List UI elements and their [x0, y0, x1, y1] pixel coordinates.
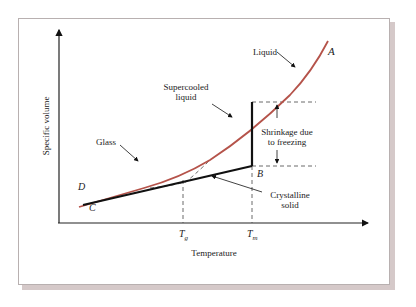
label-liquid: Liquid [253, 47, 277, 57]
label-point-b: B [257, 168, 263, 179]
label-tg: Tg [179, 228, 189, 242]
label-shrinkage-1: Shrinkage due [261, 127, 313, 137]
phase-diagram: Liquid A Supercooled liquid Glass Shrink… [0, 0, 416, 307]
y-axis-label: Specific volume [41, 97, 51, 156]
crystalline-solid-line [83, 166, 252, 205]
liquid-leader [277, 52, 295, 67]
glass-leader [120, 145, 138, 161]
label-point-c: C [89, 202, 96, 213]
label-crystalline-1: Crystalline [270, 190, 310, 200]
liquid-glass-curve [79, 41, 328, 207]
crystalline-leader [212, 176, 262, 192]
x-axis-label: Temperature [191, 248, 236, 258]
label-tm: Tm [247, 228, 258, 242]
label-crystalline-2: solid [281, 200, 299, 210]
label-point-a: A [327, 45, 335, 57]
label-glass: Glass [96, 137, 116, 147]
label-point-d: D [77, 181, 86, 192]
label-shrinkage-2: to freezing [268, 137, 307, 147]
supercooled-leader [212, 104, 232, 117]
label-supercooled-2: liquid [175, 92, 197, 102]
label-supercooled-1: Supercooled [164, 82, 209, 92]
